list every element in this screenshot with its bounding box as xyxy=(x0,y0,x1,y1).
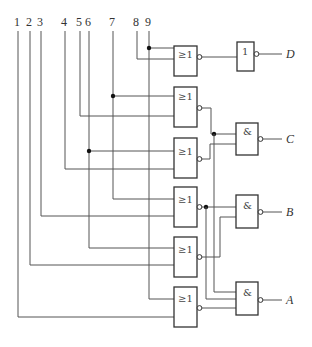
output-label-a: A xyxy=(285,293,294,307)
svg-text:≥1: ≥1 xyxy=(178,91,193,102)
nor-gate-6: ≥1 xyxy=(174,287,202,327)
input-labels: 1 2 3 4 5 6 7 8 9 xyxy=(14,15,151,29)
nor-gate-5: ≥1 xyxy=(174,237,202,277)
nand-gate-c: & C xyxy=(202,108,295,159)
input-label-3: 3 xyxy=(37,15,43,29)
output-label-d: D xyxy=(285,47,295,61)
logic-circuit-diagram: 1 2 3 4 5 6 7 8 9 ≥1 ≥1 xyxy=(0,0,312,347)
wire-8 xyxy=(137,31,174,59)
junction-dot xyxy=(111,94,115,98)
wire-5 xyxy=(80,31,174,116)
nor-gate-2: ≥1 xyxy=(174,87,202,127)
not-gate-d: 1 D xyxy=(202,42,295,71)
input-label-8: 8 xyxy=(133,15,139,29)
nand-gate-b: & B xyxy=(202,195,294,257)
svg-text:≥1: ≥1 xyxy=(178,244,193,255)
svg-text:≥1: ≥1 xyxy=(178,146,193,157)
input-label-5: 5 xyxy=(76,15,82,29)
nor-gate-4: ≥1 xyxy=(174,187,202,227)
input-label-2: 2 xyxy=(26,15,32,29)
wire-6 xyxy=(89,31,174,248)
svg-text:≥1: ≥1 xyxy=(178,49,193,60)
input-label-9: 9 xyxy=(145,15,151,29)
output-label-b: B xyxy=(286,205,294,219)
svg-text:&: & xyxy=(243,200,252,211)
svg-text:&: & xyxy=(243,126,252,137)
svg-text:1: 1 xyxy=(242,46,248,57)
input-wires xyxy=(18,31,174,317)
wire-4 xyxy=(65,31,174,169)
junction-dot xyxy=(147,46,151,50)
svg-text:≥1: ≥1 xyxy=(178,293,193,304)
input-label-6: 6 xyxy=(85,15,91,29)
nor-gate-3: ≥1 xyxy=(174,138,202,178)
input-label-1: 1 xyxy=(14,15,20,29)
svg-text:≥1: ≥1 xyxy=(178,194,193,205)
wire-2 xyxy=(30,31,174,265)
svg-text:&: & xyxy=(243,287,252,298)
wire-9 xyxy=(149,31,174,299)
wire-7 xyxy=(113,31,174,199)
junction-dot xyxy=(87,149,91,153)
output-label-c: C xyxy=(286,132,295,146)
input-label-4: 4 xyxy=(61,15,67,29)
nor-gate-1: ≥1 xyxy=(174,46,202,76)
input-label-7: 7 xyxy=(109,15,115,29)
